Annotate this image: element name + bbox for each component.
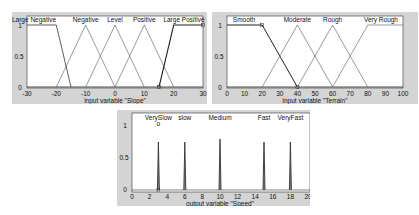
slope-ytick-05: 0.5 [14, 53, 23, 60]
slope-xtick: 0 [113, 90, 117, 97]
terrain-mf-label: Very Rough [364, 16, 398, 24]
speed-xtick: 4 [165, 193, 169, 200]
speed-mf-label: VeryFast [278, 114, 304, 122]
speed-mf-sublabel: o [157, 120, 161, 127]
speed-chart: 1 0.5 0 0 2 4 6 8 10 12 14 16 18 20 outp… [117, 110, 310, 206]
terrain-xtick: 30 [276, 90, 284, 97]
slope-xtick: -20 [52, 90, 62, 97]
speed-xtick: 20 [304, 193, 310, 200]
speed-ytick-0: 0 [123, 186, 127, 193]
terrain-xtick: 90 [382, 90, 390, 97]
speed-xtick: 0 [130, 193, 134, 200]
speed-mf-label: slow [178, 114, 191, 121]
terrain-xlabel: input variable "Terrain" [283, 97, 349, 105]
speed-mf-plot: 1 0.5 0 0 2 4 6 8 10 12 14 16 18 20 outp… [117, 110, 310, 206]
terrain-xtick: 80 [364, 90, 372, 97]
slope-xtick: -10 [81, 90, 91, 97]
slope-xtick: 30 [199, 90, 207, 97]
slope-xtick: 10 [141, 90, 149, 97]
slope-xtick: -30 [22, 90, 32, 97]
speed-xlabel: output variable "Speed" [186, 200, 255, 207]
terrain-xtick: 0 [225, 90, 229, 97]
terrain-mf-label: Rough [323, 16, 343, 24]
speed-ytick-1: 1 [123, 122, 127, 129]
slope-mf-plot: 1 0.5 0 -30 -20 -10 0 10 20 30 input var… [12, 12, 207, 104]
slope-axes-box [27, 16, 203, 88]
speed-xtick: 18 [287, 193, 295, 200]
speed-mf-label: Medium [208, 114, 231, 121]
speed-xtick: 16 [269, 193, 277, 200]
speed-mf-label: Fast [258, 114, 271, 121]
speed-ytick-05: 0.5 [119, 154, 128, 161]
terrain-ytick-05: 0.5 [214, 53, 223, 60]
terrain-xtick: 10 [241, 90, 249, 97]
terrain-xtick: 40 [294, 90, 302, 97]
terrain-mf-label: Smooth [233, 16, 256, 23]
terrain-xtick: 60 [329, 90, 337, 97]
terrain-mf-plot: 1 0.5 0 0 10 20 30 40 50 60 70 80 90 100… [212, 12, 418, 104]
slope-mf-label: Large Negative [12, 16, 56, 24]
speed-xtick: 2 [148, 193, 152, 200]
terrain-xtick: 70 [347, 90, 355, 97]
terrain-xtick: 100 [398, 90, 409, 97]
terrain-axes-box [227, 16, 403, 88]
slope-mf-label: Negative [73, 16, 99, 24]
terrain-ytick-1: 1 [218, 22, 222, 29]
terrain-xtick: 50 [311, 90, 319, 97]
terrain-mf-label: Moderate [284, 16, 312, 23]
slope-mf-label: Large Positive [163, 16, 205, 24]
slope-mf-label: Positive [133, 16, 156, 23]
slope-chart: 1 0.5 0 -30 -20 -10 0 10 20 30 input var… [12, 12, 207, 104]
slope-mf-label: Level [107, 16, 123, 23]
terrain-ytick-0: 0 [218, 84, 222, 91]
slope-xlabel: input variable "Slope" [84, 97, 146, 105]
terrain-xtick: 20 [259, 90, 267, 97]
slope-xtick: 20 [170, 90, 178, 97]
terrain-chart: 1 0.5 0 0 10 20 30 40 50 60 70 80 90 100… [212, 12, 418, 104]
